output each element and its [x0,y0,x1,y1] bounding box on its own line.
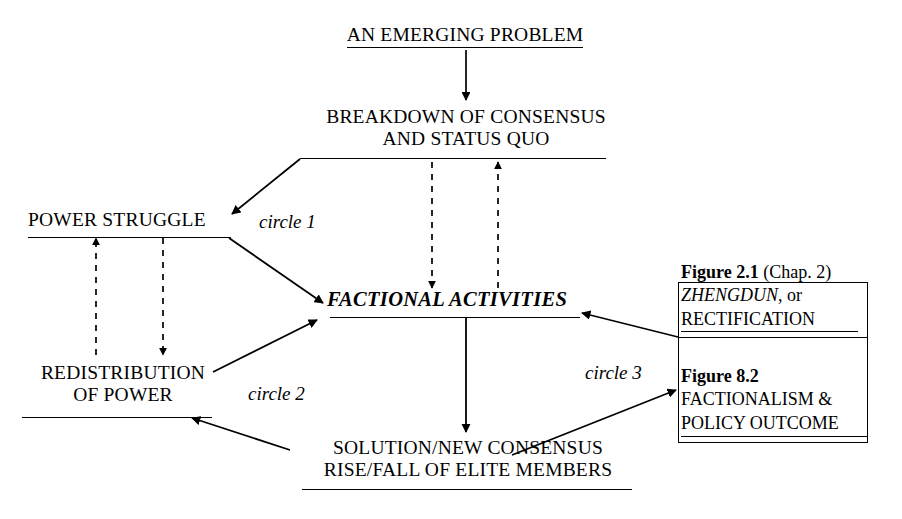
node-redistribution-line2: OF POWER [28,384,218,406]
figure-21-line2: RECTIFICATION [681,309,815,330]
label-circle-1: circle 1 [259,211,316,233]
diagram-canvas: AN EMERGING PROBLEM BREAKDOWN OF CONSENS… [0,0,902,519]
figure-82-line1: FACTIONALISM & [681,389,832,410]
node-redistribution-rule [22,417,212,418]
edge-redistribution-to-factional [213,320,317,372]
figure-82-line2-rule [681,436,868,437]
node-redistribution-line1: REDISTRIBUTION [28,362,218,384]
node-emerging-problem: AN EMERGING PROBLEM [295,24,635,48]
node-solution: SOLUTION/NEW CONSENSUS RISE/FALL OF ELIT… [288,437,648,481]
node-solution-line1: SOLUTION/NEW CONSENSUS [288,437,648,459]
figure-21-line1-rest: , or [778,285,802,305]
label-circle-3: circle 3 [585,362,642,384]
node-redistribution: REDISTRIBUTION OF POWER [28,362,218,406]
node-power-struggle: POWER STRUGGLE [28,209,238,231]
node-breakdown-line2: AND STATUS QUO [286,128,646,150]
node-breakdown: BREAKDOWN OF CONSENSUS AND STATUS QUO [286,106,646,150]
edge-solution-to-redistribution [192,418,290,450]
node-power-struggle-rule [28,237,231,238]
node-breakdown-line1: BREAKDOWN OF CONSENSUS [286,106,646,128]
node-factional-activities: FACTIONAL ACTIVITIES [327,288,607,311]
figure-21-caption-rest: (Chap. 2) [759,262,831,282]
figure-82-line2: POLICY OUTCOME [681,413,839,434]
node-breakdown-rule [300,158,606,159]
node-emerging-problem-label: AN EMERGING PROBLEM [347,24,584,48]
node-solution-line2: RISE/FALL OF ELITE MEMBERS [288,459,648,481]
figure-21-line1: ZHENGDUN, or [681,285,802,306]
figure-82-caption: Figure 8.2 [681,366,759,387]
label-circle-2: circle 2 [248,383,305,405]
edge-breakdown-to-power-struggle [232,159,300,214]
figure-box-divider [678,337,868,338]
node-power-struggle-label: POWER STRUGGLE [28,209,206,230]
figure-21-caption-bold: Figure 2.1 [681,262,759,282]
figure-21-caption: Figure 2.1 (Chap. 2) [681,262,831,283]
node-solution-rule [302,489,632,490]
edge-figure21-to-factional [582,313,678,337]
node-factional-activities-label: FACTIONAL ACTIVITIES [327,288,567,310]
node-factional-activities-rule [330,317,580,318]
figure-21-zhengdun: ZHENGDUN [681,285,778,305]
figure-21-line2-rule [681,331,858,332]
edge-power-struggle-to-factional [229,238,323,303]
